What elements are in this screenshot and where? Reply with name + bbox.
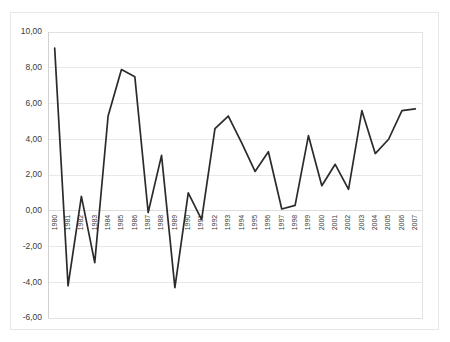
x-axis-tick-label: 1988 [157,215,164,231]
x-axis-tick-label: 1999 [304,215,311,231]
x-axis-tick-label: 2003 [358,215,365,231]
x-axis-tick-label: 1980 [51,215,58,231]
line-chart: 10,008,006,004,002,000,00-2,00-4,00-6,00… [0,0,450,342]
x-axis-tick-label: 2004 [371,215,378,231]
x-axis-tick-label: 1985 [117,215,124,231]
x-axis-tick-label: 1986 [131,215,138,231]
x-axis-tick-label: 1995 [251,215,258,231]
gridlines [48,32,422,318]
chart-container: 10,008,006,004,002,000,00-2,00-4,00-6,00… [0,0,450,342]
x-axis-tick-label: 1983 [91,215,98,231]
x-axis-tick-label: 1993 [224,215,231,231]
x-axis-tick-label: 2006 [398,215,405,231]
x-axis-tick-label: 2005 [384,215,391,231]
y-axis-tick-label: 4,00 [25,134,42,144]
y-axis-tick-label: 6,00 [25,98,42,108]
x-axis-tick-label: 1984 [104,215,111,231]
y-axis-tick-label: 2,00 [25,169,42,179]
x-axis-tick-label: 1997 [278,215,285,231]
y-axis-tick-label: 0,00 [25,205,42,215]
x-axis-tick-labels: 1980198119821983198419851986198719881989… [51,215,419,231]
y-axis-tick-label: -2,00 [23,241,43,251]
y-axis-tick-label: -4,00 [23,277,43,287]
x-axis-tick-label: 2001 [331,215,338,231]
y-axis-tick-labels: 10,008,006,004,002,000,00-2,00-4,00-6,00 [21,26,43,322]
y-axis-tick-label: 8,00 [25,62,42,72]
x-axis-tick-label: 1987 [144,215,151,231]
x-axis-tick-label: 1994 [238,215,245,231]
x-axis-tick-label: 2000 [318,215,325,231]
y-axis-tick-label: 10,00 [21,26,43,36]
series-line [55,48,416,288]
data-series [55,48,416,288]
x-axis-tick-label: 1992 [211,215,218,231]
x-axis-tick-label: 1996 [264,215,271,231]
x-axis-tick-label: 1989 [171,215,178,231]
y-axis-tick-label: -6,00 [23,312,43,322]
x-axis-tick-label: 1998 [291,215,298,231]
x-axis-tick-label: 2002 [344,215,351,231]
x-axis-tick-label: 2007 [411,215,418,231]
